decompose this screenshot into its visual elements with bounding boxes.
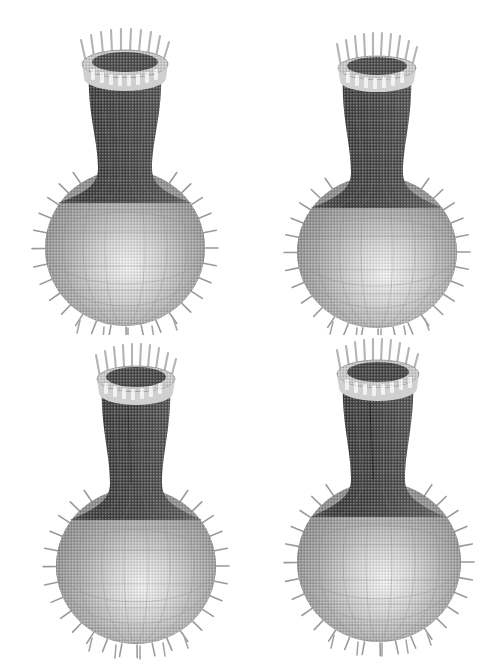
vase-panel-top-right [251, 0, 502, 335]
vase-render-top-left [0, 0, 251, 335]
vase-panel-bottom-left [0, 335, 251, 670]
figure-root [0, 0, 502, 670]
panel-grid [0, 0, 502, 670]
vase-render-bottom-right [251, 335, 502, 670]
vase-panel-bottom-right [251, 335, 502, 670]
vase-panel-top-left [0, 0, 251, 335]
vase-render-bottom-left [0, 335, 251, 670]
vase-render-top-right [251, 0, 502, 335]
